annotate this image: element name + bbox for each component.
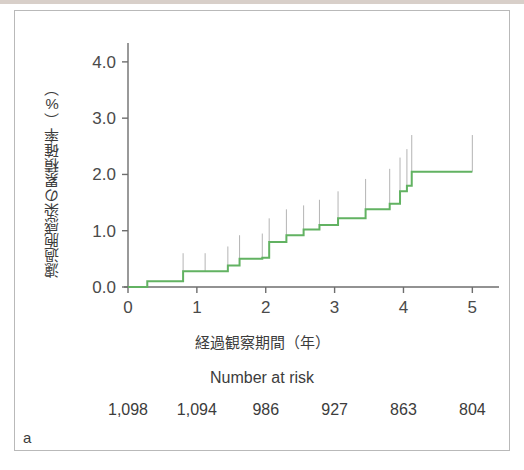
svg-text:4: 4 [399, 298, 408, 317]
number-at-risk-value: 986 [252, 401, 279, 419]
cumulative-incidence-chart: 0.01.02.03.04.0012345 [15, 11, 509, 341]
number-at-risk-value: 1,098 [108, 401, 148, 419]
number-at-risk-title: Number at risk [15, 369, 509, 387]
confidence-marks [183, 135, 472, 271]
svg-text:1.0: 1.0 [92, 222, 116, 241]
svg-text:4.0: 4.0 [92, 53, 116, 72]
svg-text:2: 2 [261, 298, 270, 317]
y-axis-title: 濾過胞感染の累積確率（%） [39, 55, 65, 305]
figure-panel: 0.01.02.03.04.0012345 濾過胞感染の累積確率（%） 経過観察… [14, 10, 510, 451]
number-at-risk-row: 1,0981,094986927863804 [15, 401, 509, 423]
svg-text:0: 0 [123, 298, 132, 317]
x-axis-title: 経過観察期間（年） [15, 331, 509, 352]
svg-text:1: 1 [192, 298, 201, 317]
number-at-risk-value: 804 [459, 401, 486, 419]
svg-text:3.0: 3.0 [92, 109, 116, 128]
svg-text:2.0: 2.0 [92, 165, 116, 184]
number-at-risk-value: 1,094 [177, 401, 217, 419]
panel-label: a [23, 429, 31, 446]
number-at-risk-value: 927 [321, 401, 348, 419]
tick-labels: 0.01.02.03.04.0012345 [92, 53, 477, 317]
page-bottom-strip [0, 458, 524, 470]
svg-text:5: 5 [468, 298, 477, 317]
axes [122, 43, 499, 293]
step-curve [128, 172, 472, 287]
page-top-edge [0, 0, 524, 4]
svg-text:3: 3 [330, 298, 339, 317]
number-at-risk-value: 863 [390, 401, 417, 419]
svg-text:0.0: 0.0 [92, 278, 116, 297]
